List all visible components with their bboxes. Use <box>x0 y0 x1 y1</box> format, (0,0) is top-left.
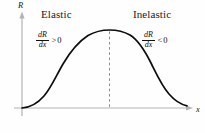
annotation-right-derivative: dR dx < 0 <box>142 31 168 49</box>
fraction-numerator-right: dR <box>143 31 154 40</box>
relation-value-left: 0 <box>57 35 61 45</box>
relation-symbol-left: > <box>52 35 57 45</box>
y-axis-label: R <box>18 1 23 10</box>
relation-value-right: 0 <box>163 35 167 45</box>
fraction-dr-dx-left: dR dx <box>36 31 49 49</box>
fraction-numerator-left: dR <box>37 31 48 40</box>
region-label-inelastic: Inelastic <box>133 9 171 20</box>
region-label-elastic: Elastic <box>41 9 72 20</box>
fraction-denominator-left: dx <box>38 41 48 50</box>
figure-canvas <box>0 0 205 133</box>
fraction-dr-dx-right: dR dx <box>142 31 155 49</box>
y-axis-arrowhead <box>19 12 24 19</box>
revenue-elasticity-figure: R x Elastic Inelastic dR dx > 0 dR dx < … <box>0 0 205 133</box>
annotation-left-derivative: dR dx > 0 <box>36 31 62 49</box>
relation-symbol-right: < <box>158 35 163 45</box>
fraction-denominator-right: dx <box>144 41 154 50</box>
x-axis <box>14 105 193 110</box>
x-axis-label: x <box>196 105 200 114</box>
y-axis <box>19 12 24 117</box>
